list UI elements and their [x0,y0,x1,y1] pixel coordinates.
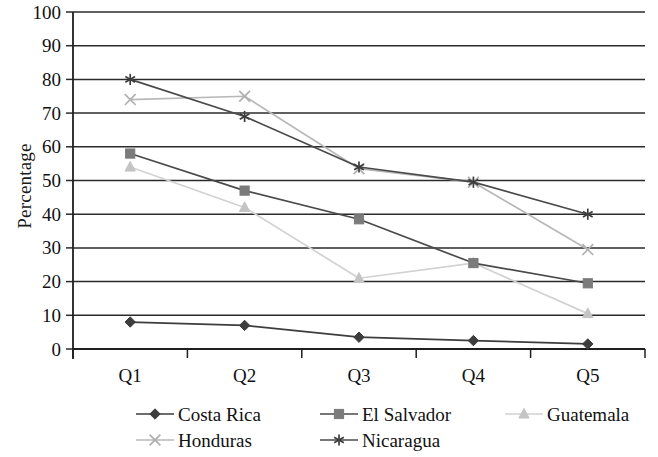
legend-label: Costa Rica [178,404,261,425]
gridlines: 0102030405060708090100 [33,2,646,360]
legend-label: Guatemala [547,404,630,425]
data-point-marker [240,186,249,195]
data-point-marker [239,320,249,330]
legend: Costa RicaEl SalvadorGuatemalaHondurasNi… [136,404,630,451]
x-axis-labels: Q1Q2Q3Q4Q5 [119,365,600,386]
y-axis-tick-label: 90 [42,35,61,56]
x-axis-tick-label: Q1 [119,365,142,386]
x-axis-tick-label: Q2 [233,365,256,386]
data-point-marker [150,409,160,419]
x-axis-tick-label: Q3 [347,365,370,386]
chart-canvas: 0102030405060708090100Q1Q2Q3Q4Q5Costa Ri… [0,0,658,457]
y-axis-tick-label: 50 [42,170,61,191]
y-axis-tick-label: 20 [42,271,61,292]
data-series [125,161,593,317]
data-point-marker [126,149,135,158]
series-group [125,74,593,349]
data-point-marker [334,409,343,418]
data-point-marker [125,161,135,171]
legend-label: Honduras [178,430,252,451]
series-line [130,167,588,314]
data-point-marker [583,279,592,288]
y-axis-tick-label: 80 [42,69,61,90]
x-axis-tick-label: Q4 [462,365,486,386]
legend-item[interactable]: El Salvador [320,404,452,425]
legend-item[interactable]: Honduras [136,430,252,451]
y-axis-tick-label: 0 [52,339,62,360]
legend-item[interactable]: Guatemala [505,404,630,425]
line-chart: Percentage 0102030405060708090100Q1Q2Q3Q… [0,0,658,457]
data-series [125,91,593,255]
data-point-marker [469,258,478,267]
data-point-marker [583,339,593,349]
legend-label: El Salvador [362,404,452,425]
y-axis-tick-label: 60 [42,136,61,157]
data-series [125,317,593,349]
series-line [130,96,588,249]
data-point-marker [468,335,478,345]
legend-item[interactable]: Costa Rica [136,404,261,425]
data-point-marker [354,332,364,342]
axes [73,12,645,359]
y-axis-tick-label: 100 [33,2,62,23]
x-axis-tick-label: Q5 [576,365,599,386]
data-point-marker [125,317,135,327]
legend-label: Nicaragua [362,430,441,451]
y-axis-tick-label: 70 [42,103,61,124]
y-axis-tick-label: 30 [42,237,61,258]
y-axis-tick-label: 40 [42,204,61,225]
data-point-marker [354,215,363,224]
data-point-marker [582,244,593,255]
y-axis-tick-label: 10 [42,305,61,326]
legend-item[interactable]: Nicaragua [320,430,441,451]
